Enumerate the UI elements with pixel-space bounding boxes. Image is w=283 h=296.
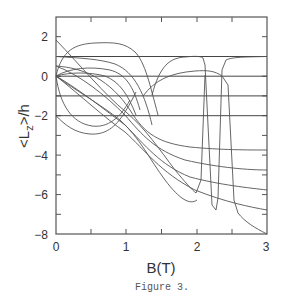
x-tick-labels: 0 1 2 3 [53, 240, 270, 254]
y-tick-m4: −4 [34, 149, 48, 163]
y-tick-m8: −8 [34, 228, 48, 242]
curve-descending-1 [56, 40, 205, 193]
flat-curves [56, 57, 267, 116]
figure-chart: 2 0 −2 −4 −6 −8 0 1 2 3 B(T) <Lz>/h Figu… [0, 0, 283, 296]
x-tick-3: 3 [263, 240, 270, 254]
x-axis-title: B(T) [146, 259, 175, 276]
x-ticks [91, 17, 232, 234]
figure-caption: Figure 3. [135, 282, 189, 293]
y-tick-2: 2 [41, 30, 48, 44]
curve-converge-m5 [56, 76, 267, 190]
svg-text:<Lz>/h: <Lz>/h [15, 104, 35, 148]
y-axis-title: <Lz>/h [15, 104, 35, 148]
y-tick-0: 0 [41, 70, 48, 84]
curve-plateau-dip [152, 56, 267, 210]
x-tick-0: 0 [53, 240, 60, 254]
curve-lower-dome-a [56, 92, 136, 134]
y-tick-labels: 2 0 −2 −4 −6 −8 [34, 30, 48, 242]
data-curves [56, 40, 267, 234]
y-tick-m6: −6 [34, 188, 48, 202]
x-tick-1: 1 [123, 240, 130, 254]
curve-upper-dome [56, 43, 158, 115]
curve-converge-m4 [56, 66, 267, 170]
y-tick-m2: −2 [34, 109, 48, 123]
curve-converge-m3 [56, 66, 267, 150]
x-tick-2: 2 [194, 240, 201, 254]
